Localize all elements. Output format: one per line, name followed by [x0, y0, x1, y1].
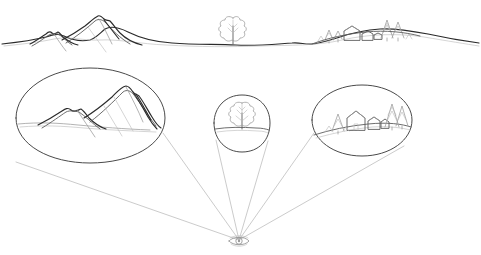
- illustration-canvas: [0, 0, 481, 255]
- landscape-vision-diagram: [0, 0, 481, 255]
